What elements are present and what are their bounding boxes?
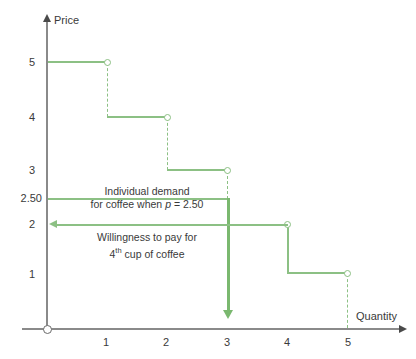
- y-axis-line: [46, 22, 48, 332]
- step-segment-price-5: [48, 61, 108, 63]
- drop-line-q3: [227, 171, 228, 199]
- willingness-to-pay-arrow-shaft: [56, 224, 288, 226]
- x-axis-title: Quantity: [356, 310, 397, 322]
- annotation-willingness-to-pay: Willingness to pay for 4th cup of coffee: [72, 231, 222, 261]
- y-tick-2point50: 2.50: [8, 192, 42, 204]
- x-tick-5: 5: [339, 336, 357, 348]
- quantity-demanded-arrow-shaft: [227, 198, 230, 312]
- data-point-q1-p5: [104, 59, 111, 66]
- annotation-individual-demand-line2-post: = 2.50: [171, 198, 203, 210]
- x-tick-2: 2: [157, 336, 175, 348]
- x-tick-1: 1: [97, 336, 115, 348]
- data-point-q5-p1: [344, 270, 351, 277]
- annotation-individual-demand-line1: Individual demand: [104, 185, 189, 197]
- data-point-q3-p3: [224, 167, 231, 174]
- annotation-individual-demand: Individual demand for coffee when p = 2.…: [72, 185, 222, 211]
- annotation-individual-demand-line2-pre: for coffee when: [91, 198, 166, 210]
- y-tick-3: 3: [22, 164, 42, 176]
- drop-line-q2: [167, 118, 168, 170]
- step-segment-price-1: [287, 272, 348, 274]
- y-tick-2: 2: [22, 218, 42, 230]
- annotation-willingness-line2-post: cup of coffee: [122, 248, 185, 260]
- y-axis-arrowhead: [43, 14, 51, 22]
- x-tick-4: 4: [278, 336, 296, 348]
- y-tick-5: 5: [22, 56, 42, 68]
- y-tick-1: 1: [22, 268, 42, 280]
- x-axis-arrowhead: [399, 325, 407, 333]
- demand-curve-chart: Price Quantity 5 4 3 2.50 2 1 1 2 3 4 5 …: [0, 0, 416, 359]
- data-point-q2-p4: [164, 114, 171, 121]
- x-axis-line: [22, 328, 400, 330]
- step-riser-q4: [287, 225, 289, 273]
- drop-line-q5: [347, 274, 348, 328]
- annotation-willingness-line1: Willingness to pay for: [97, 231, 197, 243]
- y-axis-title: Price: [54, 14, 79, 26]
- step-segment-price-4: [107, 116, 168, 118]
- step-segment-price-3: [167, 169, 228, 171]
- drop-line-q1: [107, 63, 108, 117]
- x-tick-3: 3: [218, 336, 236, 348]
- quantity-demanded-arrowhead: [223, 310, 233, 319]
- origin-marker: [43, 325, 52, 334]
- willingness-to-pay-arrowhead: [49, 220, 57, 228]
- y-tick-4: 4: [22, 111, 42, 123]
